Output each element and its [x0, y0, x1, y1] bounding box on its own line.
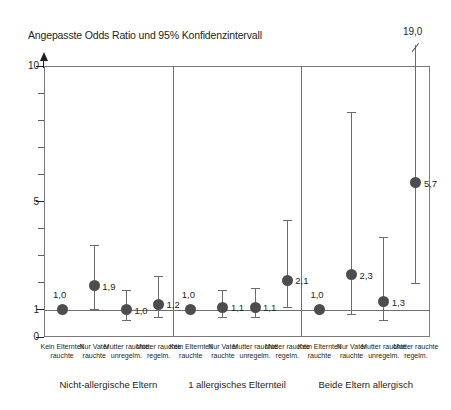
confidence-interval-line: [158, 276, 159, 317]
y-axis-label-1: 1: [17, 305, 39, 315]
data-point-label: 1,3: [392, 298, 405, 308]
offscale-value-label: 19,0: [403, 26, 422, 37]
data-point: [217, 302, 228, 313]
data-point-label: 1,0: [310, 290, 323, 300]
data-point-label: 1,0: [53, 290, 66, 300]
confidence-interval-cap-lower: [347, 314, 356, 315]
y-axis-label-5: 5: [17, 197, 39, 207]
y-axis-label-0: 0: [17, 332, 39, 342]
data-point-label: 2,1: [295, 276, 308, 286]
confidence-interval-cap-upper: [251, 288, 260, 289]
confidence-interval-cap-lower: [283, 307, 292, 308]
y-axis-label-10: 10: [17, 61, 39, 71]
data-point: [378, 296, 389, 307]
data-point-label: 1,1: [231, 303, 244, 313]
confidence-interval-cap-lower: [411, 283, 420, 284]
confidence-interval-cap-lower: [251, 317, 260, 318]
y-axis-arrow-icon: [40, 52, 48, 61]
data-point: [250, 302, 261, 313]
confidence-interval-cap-upper: [283, 220, 292, 221]
confidence-interval-line: [383, 237, 384, 320]
confidence-interval-cap-lower: [379, 320, 388, 321]
forest-plot-figure: Angepasste Odds Ratio und 95% Konfidenzi…: [0, 0, 451, 410]
group-separator: [301, 66, 302, 337]
plot-area: 1,01,91,01,21,01,11,12,11,02,31,35,7: [44, 66, 430, 337]
confidence-interval-line: [94, 245, 95, 309]
confidence-interval-cap-upper: [379, 237, 388, 238]
data-point: [153, 299, 164, 310]
group-label: Nicht-allergische Eltern: [44, 379, 173, 390]
confidence-interval-cap-lower: [122, 320, 131, 321]
chart-title: Angepasste Odds Ratio und 95% Konfidenzi…: [28, 29, 262, 41]
data-point: [185, 304, 196, 315]
confidence-interval-cap-lower: [218, 317, 227, 318]
data-point-label: 5,7: [424, 179, 437, 189]
data-point-label: 1,2: [167, 300, 180, 310]
confidence-interval-line: [287, 220, 288, 306]
data-point-label: 2,3: [360, 271, 373, 281]
data-point-label: 1,1: [263, 303, 276, 313]
confidence-interval-cap-upper: [218, 290, 227, 291]
confidence-interval-cap-lower: [154, 317, 163, 318]
confidence-interval-line: [351, 112, 352, 314]
confidence-interval-cap-upper: [154, 276, 163, 277]
group-separator: [173, 66, 174, 337]
confidence-interval-cap-upper: [90, 245, 99, 246]
data-point-label: 1,0: [134, 306, 147, 316]
data-point-label: 1,9: [102, 282, 115, 292]
confidence-interval-cap-upper: [122, 290, 131, 291]
data-point: [346, 269, 357, 280]
data-point: [314, 304, 325, 315]
data-point: [57, 304, 68, 315]
data-point: [410, 177, 421, 188]
confidence-interval-cap-lower: [90, 309, 99, 310]
data-point: [89, 280, 100, 291]
group-label: Beide Eltern allergisch: [301, 379, 430, 390]
data-point: [121, 304, 132, 315]
category-label: Mutter rauchte regelm.: [393, 342, 439, 360]
confidence-interval-cap-upper: [347, 112, 356, 113]
data-point-label: 1,0: [182, 290, 195, 300]
group-label: 1 allergisches Elternteil: [173, 379, 302, 390]
confidence-interval-line: [415, 66, 416, 283]
data-point: [282, 275, 293, 286]
